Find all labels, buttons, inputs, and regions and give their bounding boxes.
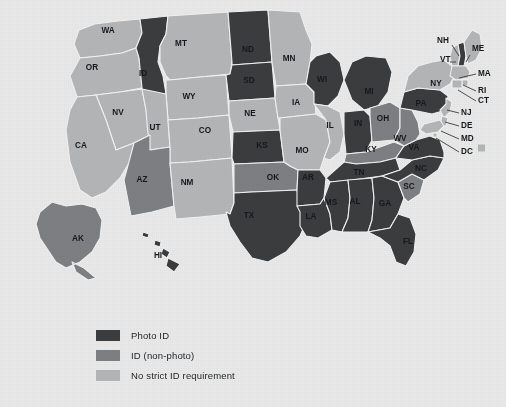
state-label-oh: OH	[377, 114, 389, 123]
legend-item-id-non-photo[interactable]: ID (non-photo)	[96, 350, 235, 361]
state-label-ga: GA	[379, 199, 391, 208]
legend-swatch-photo-id	[96, 330, 120, 341]
state-label-nc: NC	[415, 164, 427, 173]
legend-swatch-id-non-photo	[96, 350, 120, 361]
state-label-ak: AK	[72, 234, 84, 243]
state-label-nm: NM	[181, 178, 194, 187]
state-AK[interactable]	[36, 202, 102, 280]
leader-line-de	[445, 122, 459, 126]
state-label-co: CO	[199, 126, 212, 135]
state-MO[interactable]	[280, 114, 330, 170]
legend-item-no-strict-id[interactable]: No strict ID requirement	[96, 370, 235, 381]
state-label-al: AL	[350, 197, 361, 206]
state-label-in: IN	[354, 119, 362, 128]
state-label-mo: MO	[295, 146, 309, 155]
state-ND[interactable]	[228, 10, 272, 65]
state-TX[interactable]	[226, 190, 306, 262]
state-WY[interactable]	[166, 75, 229, 120]
leader-line-ri	[463, 85, 476, 91]
state-label-ms: MS	[325, 198, 338, 207]
state-label-il: IL	[326, 121, 333, 130]
state-label-pa: PA	[416, 99, 427, 108]
legend-swatch-no-strict-id	[96, 370, 120, 381]
state-label-ne: NE	[244, 109, 256, 118]
state-MN[interactable]	[268, 10, 312, 86]
callout-label-vt: VT	[440, 55, 450, 64]
legend-label: No strict ID requirement	[131, 370, 235, 381]
state-label-la: LA	[306, 212, 317, 221]
dc-marker-square	[478, 145, 485, 152]
state-label-sc: SC	[403, 182, 414, 191]
state-MI[interactable]	[344, 56, 392, 110]
state-label-wi: WI	[317, 75, 327, 84]
callout-label-ma: MA	[478, 69, 491, 78]
callout-label-ct: CT	[478, 96, 489, 105]
state-label-wa: WA	[101, 26, 114, 35]
state-label-ar: AR	[302, 173, 314, 182]
state-label-hi: HI	[154, 251, 162, 260]
us-voter-id-map: WAORIDMTNDSDMNWINYWYNVUTCONEIAILINMIOHPA…	[0, 0, 506, 407]
map-legend: Photo IDID (non-photo)No strict ID requi…	[96, 330, 235, 381]
state-label-or: OR	[86, 63, 98, 72]
state-label-wy: WY	[182, 92, 196, 101]
callout-label-me: ME	[472, 44, 485, 53]
state-label-ok: OK	[267, 173, 279, 182]
state-label-mn: MN	[283, 54, 296, 63]
legend-item-photo-id[interactable]: Photo ID	[96, 330, 235, 341]
leader-line-md	[441, 131, 459, 139]
state-DC[interactable]	[433, 133, 437, 137]
state-label-ia: IA	[292, 98, 300, 107]
state-label-fl: FL	[403, 237, 413, 246]
callout-label-nj: NJ	[461, 108, 471, 117]
state-label-az: AZ	[137, 175, 148, 184]
callout-label-md: MD	[461, 134, 474, 143]
callout-label-de: DE	[461, 121, 473, 130]
state-label-sd: SD	[243, 76, 254, 85]
legend-label: Photo ID	[131, 330, 169, 341]
state-label-tn: TN	[354, 168, 365, 177]
state-label-nv: NV	[112, 108, 124, 117]
callout-label-nh: NH	[437, 36, 449, 45]
state-CO[interactable]	[168, 115, 232, 163]
state-label-wv: WV	[393, 134, 407, 143]
state-MD[interactable]	[420, 120, 444, 134]
state-label-ks: KS	[256, 141, 268, 150]
state-label-ny: NY	[430, 79, 442, 88]
state-label-mi: MI	[364, 87, 373, 96]
state-CT[interactable]	[452, 80, 462, 88]
state-NM[interactable]	[170, 158, 234, 219]
leader-line-ct	[458, 90, 476, 101]
state-label-ky: KY	[365, 145, 377, 154]
state-label-ca: CA	[75, 141, 87, 150]
state-label-mt: MT	[175, 39, 187, 48]
state-label-va: VA	[409, 143, 420, 152]
legend-label: ID (non-photo)	[131, 350, 194, 361]
callout-label-dc: DC	[461, 147, 473, 156]
state-label-ut: UT	[150, 123, 161, 132]
callout-label-ri: RI	[478, 86, 486, 95]
state-MT[interactable]	[160, 12, 232, 80]
state-label-id: ID	[139, 69, 147, 78]
map-svg: WAORIDMTNDSDMNWINYWYNVUTCONEIAILINMIOHPA…	[0, 0, 506, 407]
state-label-nd: ND	[242, 45, 254, 54]
state-label-tx: TX	[244, 211, 255, 220]
state-RI[interactable]	[462, 80, 468, 86]
